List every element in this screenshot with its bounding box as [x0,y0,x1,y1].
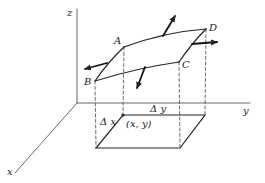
corner-label-A: A [114,36,121,46]
delta-y-label: Δ y [150,104,166,114]
corner-label-B: B [84,77,91,87]
normal-arrow-bottom [137,67,145,88]
delta-x-label: Δ x [100,117,116,127]
projection-lines [95,29,206,148]
point-xy-label: (x, y) [126,119,151,129]
corner-label-C: C [182,60,190,70]
surface-patch [95,29,206,81]
normal-arrow-right [192,42,217,44]
dash-B [95,81,96,148]
dash-C [179,62,180,148]
y-axis-label: y [243,106,249,116]
normal-arrow-left [85,63,107,69]
x-axis [15,103,77,173]
z-axis-label: z [67,8,72,18]
edge-AB [95,47,124,81]
corner-label-D: D [209,23,217,33]
surface-patch-diagram [0,0,265,183]
dash-D [205,29,206,115]
edge-DC [179,29,206,62]
dash-A [123,47,124,115]
x-axis-label: x [7,167,13,177]
normal-vectors [85,16,217,88]
